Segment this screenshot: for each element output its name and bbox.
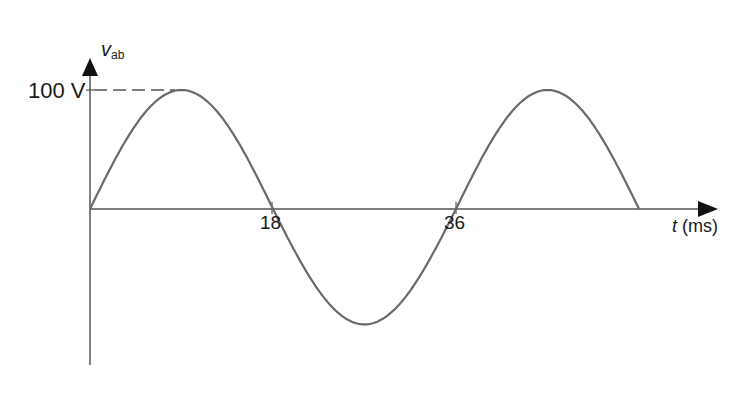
x-tick-label-36: 36 — [444, 212, 465, 234]
y-axis-arrow-icon — [82, 58, 98, 76]
y-axis-label: vab — [101, 38, 124, 62]
x-axis-arrow-icon — [698, 201, 718, 217]
voltage-waveform — [90, 90, 639, 324]
x-tick-label-18: 18 — [260, 212, 281, 234]
y-tick-label-100: 100 V — [28, 78, 86, 104]
x-axis-label: t (ms) — [672, 216, 718, 237]
